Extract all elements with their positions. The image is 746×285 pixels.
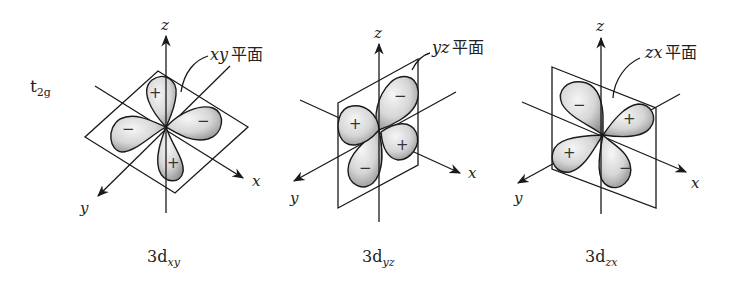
sign-left: + — [349, 115, 362, 133]
sign-upper-left: − — [573, 96, 586, 114]
z-axis-label: z — [595, 17, 604, 35]
sign-left: − — [122, 120, 135, 138]
lobe-lower-left — [552, 135, 603, 172]
group-label: t2g — [30, 76, 51, 99]
plane-label: xy平面 — [210, 45, 263, 64]
x-axis-label: x — [468, 164, 477, 182]
x-axis-label: x — [691, 174, 700, 192]
sign-right: − — [197, 112, 210, 130]
panel-dxy: + − + − z x y xy平面 3dxy — [79, 16, 263, 269]
sign-upper-right: + — [623, 110, 636, 128]
sign-upper: + — [149, 84, 162, 102]
sign-lower: − — [359, 159, 372, 177]
orbital-lobes — [552, 82, 653, 188]
y-axis-label: y — [513, 189, 523, 207]
lobe-left — [111, 116, 166, 152]
y-axis-label: y — [289, 189, 299, 207]
plane-label: yz平面 — [431, 38, 484, 57]
z-axis-label: z — [160, 16, 169, 34]
x-axis-label: x — [252, 172, 261, 190]
plane-leader-line — [181, 56, 208, 92]
plane-label: zx平面 — [644, 43, 697, 62]
y-axis-label: y — [79, 199, 89, 217]
caption-dxy: 3dxy — [147, 247, 181, 269]
sign-lower: + — [167, 154, 180, 172]
sign-upper: − — [394, 87, 407, 105]
caption-dzx: 3dzx — [585, 247, 618, 269]
sign-lower-left: + — [563, 144, 576, 162]
z-axis-label: z — [373, 24, 382, 42]
caption-dyz: 3dyz — [362, 247, 395, 269]
sign-right: + — [396, 136, 409, 154]
panel-dzx: − + − + z x y zx平面 3dzx — [513, 17, 700, 269]
d-orbital-diagram: t2g + − + − z x y xy平面 3dxy — [0, 0, 746, 285]
sign-lower-right: − — [619, 159, 632, 177]
panel-dyz: − + − + z x y yz平面 3dyz — [289, 24, 484, 269]
